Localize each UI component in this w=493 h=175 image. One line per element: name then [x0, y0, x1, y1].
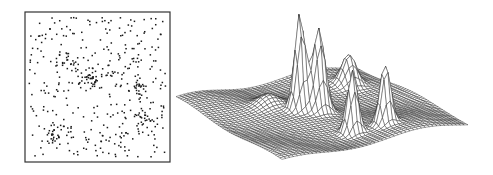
scatter-frame: [25, 12, 170, 162]
scatter-plot: [0, 0, 175, 175]
surface-mesh: [176, 14, 468, 159]
surface-plot-panel: [170, 0, 493, 175]
scatter-points: [29, 17, 167, 158]
wireframe-surface-plot: [170, 0, 493, 175]
scatter-plot-panel: [0, 0, 175, 175]
